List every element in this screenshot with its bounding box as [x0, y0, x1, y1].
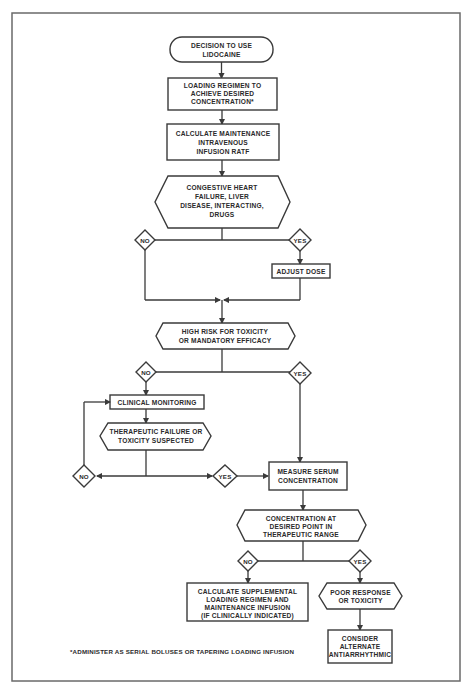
maintenance-line-1: CALCULATE MAINTENANCE [176, 130, 271, 137]
start-terminal: DECISION TO USE LIDOCAINE [170, 37, 273, 62]
chf-line-3: DISEASE, INTERACTING, [180, 202, 264, 210]
clinical-monitoring-label: CLINICAL MONITORING [117, 399, 196, 406]
conc-line-3: THERAPEUTIC RANGE [263, 531, 339, 538]
conc-no-label: NO [243, 558, 253, 565]
loading-line-1: LOADING REGIMEN TO [184, 82, 261, 89]
chf-yes-label: YES [294, 237, 307, 244]
adjust-dose-label: ADJUST DOSE [276, 268, 325, 275]
conc-line-2: DESIRED POINT IN [270, 523, 333, 530]
suspect-no-label: NO [79, 473, 89, 480]
supplemental-line-2: LOADING REGIMEN AND [206, 596, 289, 603]
failure-line-2: TOXICITY SUSPECTED [118, 437, 194, 444]
footnote: *ADMINISTER AS SERIAL BOLUSES OR TAPERIN… [70, 648, 295, 655]
loading-line-2: ACHIEVE DESIRED [191, 90, 254, 97]
risk-yes-diamond: YES [289, 362, 311, 384]
risk-no-diamond: NO [136, 362, 156, 382]
supplemental-line-1: CALCULATE SUPPLEMENTAL [198, 588, 297, 595]
supplemental-line-4: (IF CLINICALLY INDICATED) [201, 612, 294, 620]
poor-response-hexagon: POOR RESPONSE OR TOXICITY [319, 583, 402, 609]
measure-line-1: MEASURE SERUM [277, 468, 339, 475]
failure-suspected-hexagon: THERAPEUTIC FAILURE OR TOXICITY SUSPECTE… [100, 423, 211, 450]
alternate-line-1: CONSIDER [342, 635, 378, 642]
loading-line-3: CONCENTRATION* [191, 98, 254, 105]
conc-yes-label: YES [354, 558, 367, 565]
high-risk-line-1: HIGH RISK FOR TOXICITY [182, 328, 269, 335]
clinical-monitoring-box: CLINICAL MONITORING [110, 395, 204, 409]
adjust-dose-box: ADJUST DOSE [272, 264, 330, 278]
start-line-2: LIDOCAINE [202, 51, 240, 58]
alternate-antiarrhythmic-box: CONSIDER ALTERNATE ANTIARRHYTHMIC [328, 630, 392, 663]
failure-line-1: THERAPEUTIC FAILURE OR [109, 428, 202, 435]
risk-no-label: NO [141, 369, 151, 376]
risk-yes-label: YES [294, 370, 307, 377]
alternate-line-3: ANTIARRHYTHMIC [329, 651, 392, 658]
concentration-decision-hexagon: CONCENTRATION AT DESIRED POINT IN THERAP… [237, 510, 366, 541]
conc-line-1: CONCENTRATION AT [266, 515, 336, 522]
high-risk-line-2: OR MANDATORY EFFICACY [179, 337, 272, 344]
chf-line-4: DRUGS [210, 211, 235, 218]
poor-response-line-2: OR TOXICITY [338, 597, 383, 604]
measure-line-2: CONCENTRATION [278, 477, 338, 484]
chf-line-2: FAILURE, LIVER [195, 193, 249, 201]
suspect-yes-diamond: YES [213, 465, 237, 487]
suspect-yes-label: YES [219, 473, 232, 480]
conc-no-diamond: NO [238, 551, 258, 571]
lidocaine-flowchart: DECISION TO USE LIDOCAINE LOADING REGIME… [0, 0, 468, 692]
chf-line-1: CONGESTIVE HEART [187, 184, 258, 191]
measure-serum-box: MEASURE SERUM CONCENTRATION [269, 462, 347, 490]
maintenance-line-3: INFUSION RATF [196, 148, 249, 155]
maintenance-box: CALCULATE MAINTENANCE INTRAVENOUS INFUSI… [167, 124, 279, 160]
supplemental-box: CALCULATE SUPPLEMENTAL LOADING REGIMEN A… [187, 583, 308, 621]
alternate-line-2: ALTERNATE [340, 643, 381, 650]
chf-no-label: NO [140, 237, 150, 244]
conc-yes-diamond: YES [349, 550, 371, 572]
chf-decision-hexagon: CONGESTIVE HEART FAILURE, LIVER DISEASE,… [155, 176, 290, 228]
loading-regimen-box: LOADING REGIMEN TO ACHIEVE DESIRED CONCE… [168, 78, 277, 110]
suspect-no-diamond: NO [73, 465, 95, 487]
poor-response-line-1: POOR RESPONSE [330, 589, 391, 596]
chf-no-diamond: NO [135, 230, 155, 250]
chf-yes-diamond: YES [289, 229, 311, 251]
start-line-1: DECISION TO USE [191, 42, 253, 49]
maintenance-line-2: INTRAVENOUS [198, 139, 248, 146]
supplemental-line-3: MAINTENANCE INFUSION [204, 604, 290, 611]
high-risk-hexagon: HIGH RISK FOR TOXICITY OR MANDATORY EFFI… [156, 323, 295, 349]
